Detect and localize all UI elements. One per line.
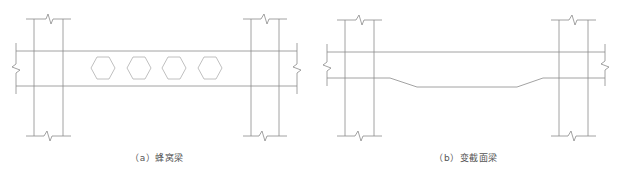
break-symbol-icon <box>551 15 596 25</box>
left-column <box>26 14 71 141</box>
beam-bottom-haunch <box>327 78 605 87</box>
beam <box>12 43 301 94</box>
hexagon-holes <box>91 57 222 79</box>
break-symbol-icon <box>26 14 71 24</box>
hexagon-hole <box>127 57 151 79</box>
break-symbol-icon <box>601 44 609 86</box>
break-symbol-icon <box>337 131 382 141</box>
caption-a: （a）蜂窝梁 <box>130 151 184 164</box>
break-symbol-icon <box>243 131 287 141</box>
break-symbol-icon <box>323 44 331 86</box>
diagram-canvas <box>0 0 619 173</box>
caption-b: （b）变截面梁 <box>434 151 497 164</box>
hexagon-hole <box>162 57 186 79</box>
hexagon-hole <box>91 57 115 79</box>
figure-b-variable-section-beam <box>323 15 609 141</box>
beam <box>323 44 609 87</box>
break-symbol-icon <box>243 14 287 24</box>
hexagon-hole <box>198 57 222 79</box>
right-column <box>243 14 287 141</box>
figure-a-castellated-beam <box>12 14 301 141</box>
break-symbol-icon <box>551 131 596 141</box>
break-symbol-icon <box>26 131 71 141</box>
break-symbol-icon <box>337 15 382 25</box>
